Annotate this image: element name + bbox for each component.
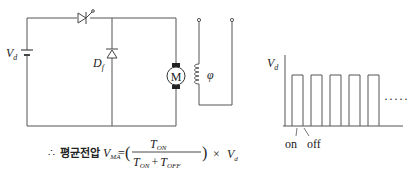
y-axis-label: Vd xyxy=(267,56,279,72)
rhs-variable: Vd xyxy=(227,147,238,163)
therefore-symbol: ∴ xyxy=(48,147,55,159)
circuit xyxy=(27,18,176,126)
open-paren: ( xyxy=(125,144,130,162)
korean-label: 평균전압 xyxy=(60,146,100,160)
times-sign: × xyxy=(213,147,220,161)
chopper-diagram: M Vd Df φ ∴ 평균전압 VMA = ( TON TON+TOFF ) … xyxy=(0,0,418,175)
average-voltage-formula: ∴ 평균전압 VMA = ( TON TON+TOFF ) × Vd xyxy=(48,137,238,170)
continuation-dots: ····· xyxy=(384,92,409,106)
motor-icon: M xyxy=(167,63,185,89)
coil-icon xyxy=(195,64,200,84)
field-flux-label: φ xyxy=(207,68,214,82)
denominator: TON+TOFF xyxy=(133,155,181,170)
numerator: TON xyxy=(150,137,167,152)
pulse-train xyxy=(292,75,379,126)
chopper-waveform: Vd ····· on off xyxy=(267,55,409,151)
on-label: on xyxy=(285,137,297,151)
source-label: Vd xyxy=(6,46,18,62)
equals-sign: = xyxy=(118,146,125,160)
motor-label: M xyxy=(171,70,182,84)
field-winding xyxy=(195,18,234,105)
freewheel-diode-icon xyxy=(106,49,118,58)
label-arrows xyxy=(296,128,309,136)
terminal-left-icon xyxy=(197,18,200,21)
diode-label: Df xyxy=(92,56,106,72)
thyristor-icon xyxy=(78,10,94,24)
dc-source-icon xyxy=(21,50,33,55)
terminal-right-icon xyxy=(230,18,233,21)
close-paren: ) xyxy=(202,144,207,162)
off-label: off xyxy=(307,137,321,151)
